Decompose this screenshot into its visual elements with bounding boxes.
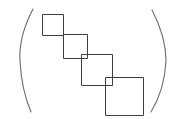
squares-staircase-diagram bbox=[0, 0, 177, 119]
figure-canvas: Staircase of four squares enclosed in pa… bbox=[0, 0, 177, 119]
